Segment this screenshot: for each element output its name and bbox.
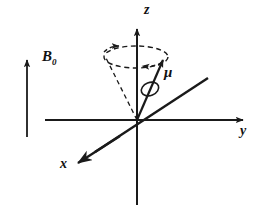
precession-arrow-cw-far bbox=[104, 46, 119, 52]
precession-cone bbox=[105, 56, 137, 120]
precession-arrow-near bbox=[142, 63, 162, 66]
field-label-b0: B0 bbox=[42, 48, 57, 67]
axis-arrow-down-left-icon bbox=[78, 136, 120, 163]
axis-label-z: z bbox=[144, 3, 149, 17]
moment-label-mu: μ bbox=[164, 65, 172, 80]
axis-label-x: x bbox=[60, 157, 67, 171]
field-label-base: B bbox=[42, 48, 52, 64]
field-label-subscript: 0 bbox=[52, 57, 57, 67]
axis-label-y: y bbox=[240, 124, 246, 138]
diagram-vector-graphics bbox=[0, 0, 264, 212]
figure-canvas: z y x B0 μ bbox=[0, 0, 264, 212]
